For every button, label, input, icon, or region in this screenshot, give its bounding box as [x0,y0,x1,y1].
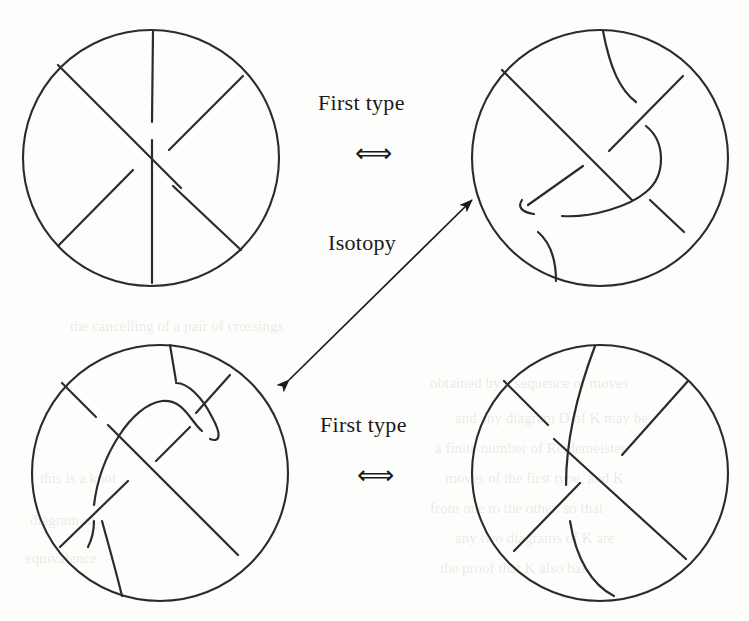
strand-diagonal-se [173,186,241,250]
tangle-disk-outline [472,345,728,601]
strand-kink-upper [603,31,636,102]
strand-diagonal-sw [60,481,128,547]
tangle-disk-outline [32,345,288,601]
isotopy-arrow-shaft [289,200,472,380]
label-first-type-bottom: First type [320,412,407,438]
strand-diagonal-sw [514,483,580,551]
strand-kink-tail [88,521,94,547]
strand-diagonal-main [58,65,181,188]
strand-diagonal-sw [528,166,583,205]
strand-diagonal-ne [196,375,230,413]
strand-diagonal-sw [58,170,133,246]
strand-diagonal-main [502,70,632,200]
strand-diagonal-mid-right [156,427,190,461]
strand-arc-bottom [102,521,122,596]
strand-diagonal-ne [609,76,683,151]
knot-theory-figure: the cancelling of a pair of crossingsobt… [0,0,749,621]
tangle-disk-outline [472,30,728,286]
strand-diagonal-nw [504,381,548,425]
strand-diagonal-nw [62,383,96,417]
watermark-line: the cancelling of a pair of crossings [70,318,283,335]
equivalence-arrow-top: ⟺ [355,140,392,166]
isotopy-double-arrow [275,188,485,393]
strand-kink-main [94,401,202,505]
tangle-diagram-bottom-right [470,343,730,603]
tangle-diagram-bottom-left [30,343,290,603]
strand-diagonal-se [650,200,684,232]
label-first-type-top: First type [318,90,405,116]
tangle-diagram-top-left [21,28,281,288]
strand-kink-upper [170,345,176,381]
strand-diagonal-ne [622,381,688,455]
tangle-diagram-top-right [470,28,730,288]
equivalence-arrow-bottom: ⟺ [357,462,394,488]
strand-curve-lower [570,521,614,596]
strand-vertical-upper [152,31,153,122]
strand-diagonal-ne [169,76,243,150]
